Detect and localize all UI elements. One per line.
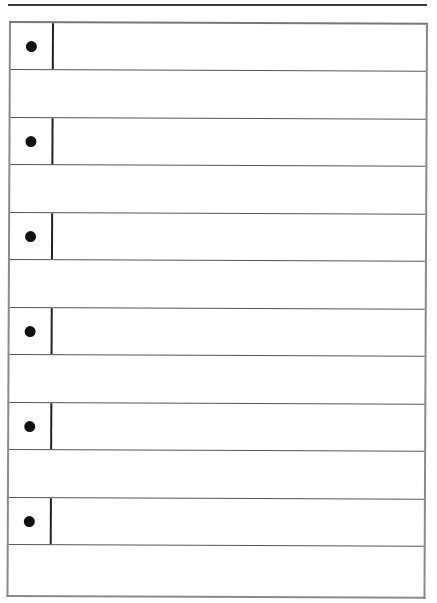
bullet-icon [24,516,35,527]
bullet-icon [25,231,36,242]
bullet-text-field[interactable] [53,308,425,356]
bullet-row-4 [10,308,425,357]
bullet-text-field[interactable] [52,403,424,451]
bullet-icon [25,136,36,147]
bullet-row-5 [9,403,424,452]
worksheet [6,21,428,599]
blank-row-6[interactable] [9,545,424,595]
blank-row-5[interactable] [9,450,424,500]
bullet-row-3 [10,213,425,262]
bullet-cell [10,308,53,354]
bullet-cell [9,498,52,544]
blank-row-3[interactable] [10,260,425,310]
blank-row-4[interactable] [9,355,424,405]
bullet-row-1 [11,23,426,72]
blank-row-2[interactable] [10,165,425,215]
blank-row-1[interactable] [11,70,426,120]
bullet-text-field[interactable] [52,498,424,546]
bullet-text-field[interactable] [53,118,425,166]
bullet-cell [11,23,54,69]
bullet-cell [10,213,53,259]
bullet-icon [25,326,36,337]
bullet-text-field[interactable] [53,213,425,261]
bullet-text-field[interactable] [54,23,426,71]
bullet-icon [24,421,35,432]
bullet-row-2 [10,118,425,167]
bullet-icon [26,41,37,52]
bullet-cell [9,403,52,449]
bullet-cell [10,118,53,164]
bullet-row-6 [9,498,424,547]
top-rule [8,4,427,6]
